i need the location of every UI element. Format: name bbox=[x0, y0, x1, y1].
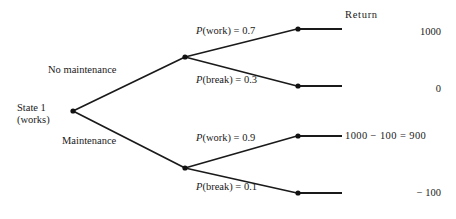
decision-tree-diagram: State 1 (works) No maintenance Maintenan… bbox=[0, 0, 456, 219]
node-terminal-work-no-maintenance bbox=[295, 26, 300, 31]
probability-expression: (work) = 0.7 bbox=[202, 25, 255, 36]
node-terminal-work-maintenance bbox=[295, 133, 300, 138]
root-node-label: State 1 (works) bbox=[17, 102, 50, 126]
probability-label-break-no-maintenance: P(break) = 0.3 bbox=[196, 74, 257, 86]
node-chance-no-maintenance bbox=[182, 54, 187, 59]
node-terminal-break-maintenance bbox=[295, 190, 300, 195]
return-column-header: Return bbox=[345, 9, 378, 21]
probability-expression: (work) = 0.9 bbox=[202, 132, 255, 143]
probability-expression: (break) = 0.3 bbox=[202, 74, 257, 85]
return-value-work-maintenance: 1000 − 100 = 900 bbox=[345, 130, 426, 142]
probability-expression: (break) = 0.1 bbox=[202, 181, 257, 192]
probability-label-work-no-maintenance: P(work) = 0.7 bbox=[196, 25, 255, 37]
probability-label-work-maintenance: P(work) = 0.9 bbox=[196, 132, 255, 144]
root-label-line-2: (works) bbox=[17, 114, 50, 126]
return-value-break-maintenance: − 100 bbox=[381, 187, 441, 199]
return-value-work-no-maintenance: 1000 bbox=[381, 26, 441, 38]
branch-label-no-maintenance: No maintenance bbox=[48, 64, 117, 76]
root-label-line-1: State 1 bbox=[17, 102, 50, 114]
return-value-break-no-maintenance: 0 bbox=[381, 83, 441, 95]
node-terminal-break-no-maintenance bbox=[295, 83, 300, 88]
node-root-state-1 bbox=[70, 108, 75, 113]
node-chance-maintenance bbox=[182, 165, 187, 170]
probability-label-break-maintenance: P(break) = 0.1 bbox=[196, 181, 257, 193]
branch-label-maintenance: Maintenance bbox=[62, 135, 116, 147]
